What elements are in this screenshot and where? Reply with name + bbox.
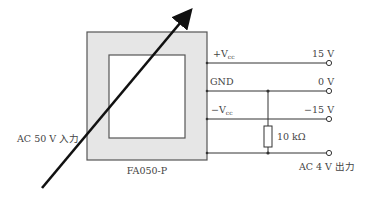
resistor-icon <box>264 126 272 147</box>
pin-label-vcc-pos: +Vcc <box>213 48 235 60</box>
pin-label-gnd: GND <box>210 76 234 87</box>
current-sensor-diagram: +Vcc GND −Vcc 15 V 0 V −15 V AC 4 V 出力 1… <box>0 0 367 200</box>
output-label: AC 4 V 出力 <box>298 161 355 172</box>
pin-value-0v: 0 V <box>318 76 334 87</box>
sensor-core-window <box>109 55 185 138</box>
resistor-label: 10 kΩ <box>277 131 306 142</box>
sensor-model-label: FA050-P <box>127 165 168 176</box>
pin-value-neg15v: −15 V <box>304 104 334 115</box>
junction-dot-gnd <box>266 89 269 92</box>
junction-dot-output <box>266 151 269 154</box>
input-label: AC 50 V 入力 <box>16 133 79 144</box>
pin-label-vcc-neg: −Vcc <box>211 104 233 116</box>
pin-value-15v: 15 V <box>312 48 334 59</box>
